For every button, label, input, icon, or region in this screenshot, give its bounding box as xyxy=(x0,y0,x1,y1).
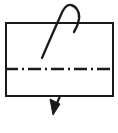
drawing-canvas xyxy=(0,0,118,133)
technical-drawing-figure xyxy=(0,0,118,133)
